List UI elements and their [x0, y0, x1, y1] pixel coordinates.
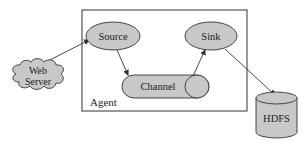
hdfs-node: HDFS [256, 92, 297, 138]
channel-node: Channel [122, 75, 209, 98]
edge-source-to-channel [117, 50, 128, 75]
edge-sink-to-hdfs [225, 49, 275, 95]
channel-label: Channel [141, 81, 176, 92]
sink-label: Sink [201, 31, 221, 42]
web-server-label-line1: Web [29, 65, 47, 76]
web-server-label-line2: Server [25, 76, 52, 87]
source-label: Source [98, 31, 127, 42]
agent-label: Agent [90, 96, 117, 108]
sink-node: Sink [185, 22, 237, 50]
hdfs-label: HDFS [263, 113, 290, 124]
source-node: Source [86, 22, 140, 50]
flume-architecture-diagram: Agent Web Server Source Sink Channel HDF… [0, 0, 307, 144]
edge-channel-to-sink [193, 50, 205, 76]
web-server-node: Web Server [13, 59, 64, 90]
